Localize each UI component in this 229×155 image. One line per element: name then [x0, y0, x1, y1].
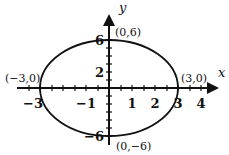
ellipse-graph: −3 −1 1 2 3 4 6 2 −6 y x (0,6) (−3,0) (3…: [0, 0, 229, 155]
x-tick-label: −1: [76, 96, 96, 111]
x-axis-arrow-icon: [207, 82, 219, 94]
y-axis-label: y: [118, 0, 127, 15]
x-tick-label: 2: [150, 96, 159, 111]
point-label-right: (3,0): [181, 72, 207, 85]
y-tick-label: 6: [95, 33, 104, 48]
point-label-left: (−3,0): [5, 72, 40, 85]
x-tick-label: −3: [23, 96, 43, 111]
point-label-bottom: (0,−6): [116, 140, 151, 153]
point-label-top: (0,6): [115, 26, 141, 39]
x-tick-label: 1: [127, 96, 136, 111]
x-tick-label: 3: [173, 96, 182, 111]
y-tick-label: −6: [84, 129, 104, 144]
y-tick-label: 2: [95, 65, 104, 80]
x-axis-label: x: [218, 65, 226, 80]
x-tick-label: 4: [196, 96, 205, 111]
y-axis-arrow-icon: [103, 14, 115, 26]
